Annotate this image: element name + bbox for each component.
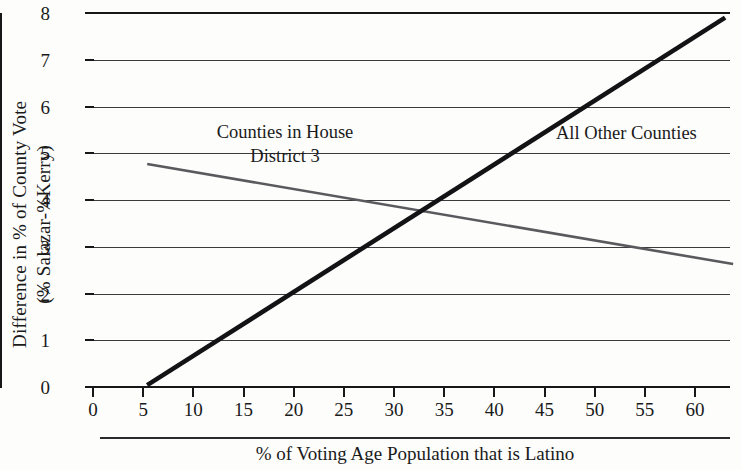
gridline-y-4 bbox=[93, 200, 730, 201]
y-tick-3 bbox=[85, 246, 94, 248]
x-tick-label-30: 30 bbox=[374, 400, 414, 419]
y-tick-label-7: 7 bbox=[10, 51, 50, 70]
y-axis-title-line2: (% Salazar-%Kerry) bbox=[32, 24, 56, 424]
y-tick-1 bbox=[85, 339, 94, 341]
x-tick-label-25: 25 bbox=[324, 400, 364, 419]
x-tick-label-15: 15 bbox=[224, 400, 264, 419]
y-axis-title-line1: Difference in % of County Vote bbox=[9, 101, 30, 348]
x-tick-15 bbox=[243, 388, 245, 397]
x-tick-60 bbox=[694, 388, 696, 397]
annotation-all-other-counties: All Other Counties bbox=[556, 121, 736, 145]
x-tick-label-45: 45 bbox=[525, 400, 565, 419]
x-tick-label-0: 0 bbox=[73, 400, 113, 419]
series-line-0 bbox=[147, 164, 733, 264]
gridline-y-7 bbox=[93, 60, 730, 61]
y-tick-8 bbox=[85, 12, 94, 14]
gridline-y-3 bbox=[93, 247, 730, 248]
annotation-other-line1: All Other Counties bbox=[556, 121, 736, 145]
x-tick-50 bbox=[594, 388, 596, 397]
y-tick-label-6: 6 bbox=[10, 98, 50, 117]
y-tick-2 bbox=[85, 293, 94, 295]
annotation-d3-line1: Counties in House bbox=[185, 120, 385, 144]
y-tick-label-8: 8 bbox=[10, 4, 50, 23]
series-line-1 bbox=[147, 18, 725, 385]
y-tick-label-3: 3 bbox=[10, 238, 50, 257]
gridline-y-2 bbox=[93, 294, 730, 295]
gridline-y-0 bbox=[93, 386, 730, 388]
x-tick-10 bbox=[192, 388, 194, 397]
x-tick-label-60: 60 bbox=[675, 400, 715, 419]
y-tick-5 bbox=[85, 152, 94, 154]
gridline-y-1 bbox=[93, 340, 730, 341]
gridline-y-8 bbox=[93, 12, 730, 14]
x-tick-0 bbox=[92, 388, 94, 397]
y-tick-label-1: 1 bbox=[10, 331, 50, 350]
x-tick-30 bbox=[393, 388, 395, 397]
x-tick-35 bbox=[443, 388, 445, 397]
x-axis-title: % of Voting Age Population that is Latin… bbox=[100, 444, 730, 465]
x-tick-55 bbox=[644, 388, 646, 397]
x-tick-label-10: 10 bbox=[173, 400, 213, 419]
annotation-d3-line2: District 3 bbox=[185, 144, 385, 168]
y-tick-label-2: 2 bbox=[10, 285, 50, 304]
chart-figure: Difference in % of County Vote (% Salaza… bbox=[0, 0, 741, 470]
x-tick-label-55: 55 bbox=[625, 400, 665, 419]
y-tick-6 bbox=[85, 106, 94, 108]
x-tick-label-5: 5 bbox=[123, 400, 163, 419]
x-tick-45 bbox=[544, 388, 546, 397]
y-tick-label-4: 4 bbox=[10, 191, 50, 210]
y-axis-title: Difference in % of County Vote (% Salaza… bbox=[8, 24, 57, 424]
y-tick-label-5: 5 bbox=[10, 144, 50, 163]
x-tick-label-20: 20 bbox=[274, 400, 314, 419]
x-tick-40 bbox=[493, 388, 495, 397]
gridline-y-6 bbox=[93, 107, 730, 108]
x-tick-5 bbox=[142, 388, 144, 397]
x-axis-rule bbox=[100, 437, 730, 439]
x-tick-20 bbox=[293, 388, 295, 397]
y-tick-7 bbox=[85, 59, 94, 61]
x-tick-label-40: 40 bbox=[474, 400, 514, 419]
x-tick-25 bbox=[343, 388, 345, 397]
y-tick-label-0: 0 bbox=[10, 378, 50, 397]
x-tick-label-50: 50 bbox=[575, 400, 615, 419]
x-tick-label-35: 35 bbox=[424, 400, 464, 419]
y-tick-4 bbox=[85, 199, 94, 201]
y-axis-line bbox=[0, 13, 2, 388]
annotation-counties-in-house-district-3: Counties in House District 3 bbox=[185, 120, 385, 168]
